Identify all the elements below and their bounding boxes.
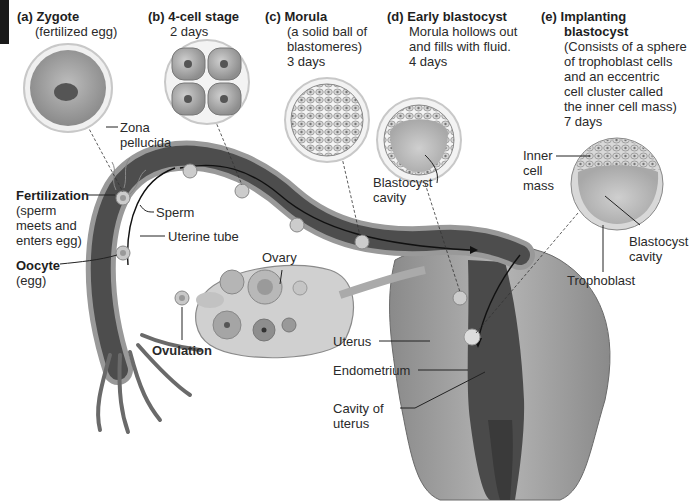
trophoblast-label: Trophoblast <box>567 273 635 288</box>
zona-label-line-1: Zona <box>120 120 171 135</box>
fertilization-title: Fertilization <box>16 188 89 203</box>
stage-c-desc-1: (a solid ball of <box>265 24 367 39</box>
stage-a-desc: (fertilized egg) <box>17 24 117 39</box>
stage-c-desc-2: blastomeres) <box>265 39 367 54</box>
endometrium-label: Endometrium <box>333 363 410 378</box>
oocyte-label: Oocyte (egg) <box>16 258 60 288</box>
stage-e-desc-1: (Consists of a sphere <box>541 39 687 54</box>
stage-e-title-2: blastocyst <box>541 24 687 39</box>
stage-a-heading: (a) Zygote (fertilized egg) <box>17 9 117 39</box>
inner-cell-mass-line-2: cell <box>523 163 554 178</box>
zona-label-line-2: pellucida <box>120 135 171 150</box>
blastocyst-cavity-d-line-2: cavity <box>373 190 432 205</box>
stage-e-desc-4: cell cluster called <box>541 84 687 99</box>
ovary-label: Ovary <box>262 250 297 265</box>
cavity-of-uterus-label: Cavity of uterus <box>333 401 384 431</box>
stage-e-title: Implanting <box>561 9 627 24</box>
stage-d-title: Early blastocyst <box>407 9 507 24</box>
stage-d-desc-2: and fills with fluid. <box>387 39 517 54</box>
blastocyst-cavity-e-line-2: cavity <box>629 249 688 264</box>
zygote-illustration <box>24 44 112 132</box>
stage-d-days: 4 days <box>387 54 517 69</box>
ovulation-label: Ovulation <box>152 343 212 358</box>
stage-a-letter: (a) <box>17 9 33 24</box>
early-blastocyst-illustration <box>377 98 461 182</box>
blastocyst-cavity-d-label: Blastocyst cavity <box>373 175 432 205</box>
uterus-label: Uterus <box>333 334 371 349</box>
stage-c-title: Morula <box>285 9 328 24</box>
stage-b-days: 2 days <box>148 24 239 39</box>
cavity-of-uterus-line-2: uterus <box>333 416 384 431</box>
stage-e-desc-2: of trophoblast cells <box>541 54 687 69</box>
stage-c-days: 3 days <box>265 54 367 69</box>
inner-cell-mass-line-1: Inner <box>523 148 554 163</box>
four-cell-illustration <box>165 40 249 124</box>
stage-e-desc-5: the inner cell mass) <box>541 99 687 114</box>
stage-d-letter: (d) <box>387 9 404 24</box>
blastocyst-cavity-e-label: Blastocyst cavity <box>629 234 688 264</box>
oocyte-desc: (egg) <box>16 273 60 288</box>
stage-b-heading: (b) 4-cell stage 2 days <box>148 9 239 39</box>
oocyte-title: Oocyte <box>16 258 60 273</box>
stage-e-days: 7 days <box>541 114 687 129</box>
blastocyst-cavity-d-line-1: Blastocyst <box>373 175 432 190</box>
morula-illustration <box>285 78 369 162</box>
early-embryonic-development-diagram: (a) Zygote (fertilized egg) (b) 4-cell s… <box>0 0 697 504</box>
stage-d-heading: (d) Early blastocyst Morula hollows out … <box>387 9 517 69</box>
stage-e-letter: (e) <box>541 9 557 24</box>
inner-cell-mass-label: Inner cell mass <box>523 148 554 193</box>
stage-c-heading: (c) Morula (a solid ball of blastomeres)… <box>265 9 367 69</box>
inner-cell-mass-line-3: mass <box>523 178 554 193</box>
fertilization-label: Fertilization (sperm meets and enters eg… <box>16 188 89 248</box>
fertilization-desc-3: enters egg) <box>16 233 89 248</box>
stage-c-letter: (c) <box>265 9 281 24</box>
cavity-of-uterus-line-1: Cavity of <box>333 401 384 416</box>
stage-b-letter: (b) <box>148 9 165 24</box>
fertilization-desc-1: (sperm <box>16 203 89 218</box>
uterine-tube-label: Uterine tube <box>168 229 239 244</box>
blastocyst-cavity-e-line-1: Blastocyst <box>629 234 688 249</box>
stage-b-title: 4-cell stage <box>168 9 239 24</box>
stage-e-heading: (e) Implanting blastocyst (Consists of a… <box>541 9 687 129</box>
stage-e-desc-3: and an eccentric <box>541 69 687 84</box>
stage-d-desc-1: Morula hollows out <box>387 24 517 39</box>
stage-a-title: Zygote <box>37 9 80 24</box>
zona-pellucida-label: Zona pellucida <box>120 120 171 150</box>
sperm-label: Sperm <box>156 205 194 220</box>
fertilization-desc-2: meets and <box>16 218 89 233</box>
implanting-blastocyst-illustration <box>570 138 665 230</box>
